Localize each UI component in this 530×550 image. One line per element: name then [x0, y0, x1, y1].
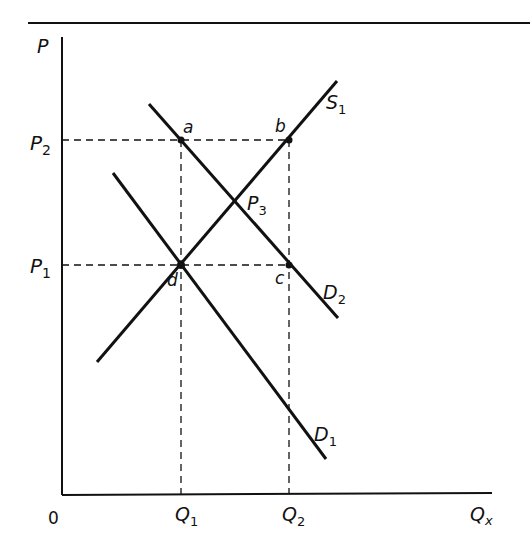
point-c-label: c — [275, 268, 285, 288]
point-b-label: b — [275, 116, 286, 136]
supply-demand-diagram: P 0 Qx P2 P1 Q1 Q2 S1 D2 D1 a b c d P3 — [0, 0, 530, 550]
point-a — [178, 137, 185, 144]
point-b — [286, 137, 293, 144]
supply-curve-s1 — [97, 81, 337, 362]
point-p3-label: P3 — [247, 192, 267, 218]
p2-label: P2 — [30, 131, 51, 158]
x-axis-label: Qx — [470, 503, 493, 528]
point-d-label: d — [167, 270, 178, 290]
point-c — [286, 262, 293, 269]
y-axis-label: P — [37, 35, 49, 57]
s1-label: S1 — [326, 91, 346, 117]
point-a-label: a — [183, 117, 193, 137]
x-axis — [62, 493, 492, 495]
point-d — [177, 261, 185, 269]
q1-label: Q1 — [175, 503, 198, 529]
q2-label: Q2 — [282, 503, 305, 529]
origin-label: 0 — [48, 508, 59, 528]
demand-curve-d1 — [113, 173, 326, 459]
p1-label: P1 — [30, 254, 51, 281]
